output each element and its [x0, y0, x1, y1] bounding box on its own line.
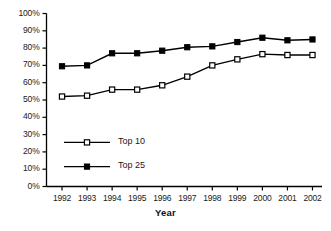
y-tick-label: 100% [0, 8, 40, 18]
x-tick-label: 1994 [98, 193, 126, 203]
y-tick-label: 20% [0, 146, 40, 156]
y-tick-label: 0% [0, 181, 40, 191]
y-tick-label: 30% [0, 129, 40, 139]
chart-tick-marks [43, 14, 313, 191]
x-tick-label: 1995 [123, 193, 151, 203]
y-tick-label: 90% [0, 25, 40, 35]
y-tick-label: 40% [0, 111, 40, 121]
x-tick-label: 2001 [273, 193, 301, 203]
y-tick-label: 80% [0, 42, 40, 52]
x-tick-label: 1996 [148, 193, 176, 203]
chart-container: 0%10%20%30%40%50%60%70%80%90%100% 199219… [0, 0, 331, 231]
y-tick-label: 50% [0, 94, 40, 104]
y-tick-label: 60% [0, 77, 40, 87]
legend-label-top-25: Top 25 [118, 160, 145, 170]
legend-label-top-10: Top 10 [118, 136, 145, 146]
x-axis-title: Year [0, 207, 331, 218]
y-tick-label: 10% [0, 163, 40, 173]
y-tick-label: 70% [0, 59, 40, 69]
x-tick-label: 1992 [48, 193, 76, 203]
x-tick-label: 1998 [198, 193, 226, 203]
x-tick-label: 2000 [248, 193, 276, 203]
legend-markers [64, 140, 110, 169]
x-tick-label: 2002 [298, 193, 326, 203]
x-tick-label: 1993 [73, 193, 101, 203]
x-tick-label: 1999 [223, 193, 251, 203]
x-tick-label: 1997 [173, 193, 201, 203]
chart-series-lines [59, 35, 315, 99]
